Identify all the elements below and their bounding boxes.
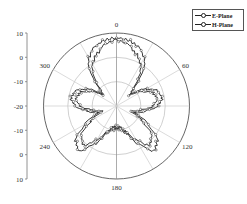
data-point-marker bbox=[111, 41, 113, 43]
radial-tick-label: -10 bbox=[14, 127, 24, 135]
data-point-marker bbox=[91, 50, 93, 52]
data-point-marker bbox=[124, 42, 126, 44]
data-point-marker bbox=[143, 68, 145, 70]
data-point-marker bbox=[84, 123, 86, 125]
data-point-marker bbox=[76, 140, 78, 142]
data-point-marker bbox=[140, 49, 142, 51]
data-point-marker bbox=[130, 38, 132, 40]
data-point-marker bbox=[74, 92, 76, 94]
data-point-marker bbox=[82, 140, 84, 142]
data-point-marker bbox=[76, 148, 78, 150]
radial-axis: 10 0 -10 -20 -10 0 10 bbox=[14, 30, 27, 184]
data-point-marker bbox=[130, 110, 132, 112]
data-point-marker bbox=[133, 139, 135, 141]
radial-tick-label: -20 bbox=[14, 103, 24, 111]
data-point-marker bbox=[136, 110, 138, 112]
data-point-marker bbox=[95, 112, 97, 114]
data-point-marker bbox=[130, 45, 132, 47]
angle-label-180: 180 bbox=[111, 184, 122, 192]
data-point-marker bbox=[140, 66, 142, 68]
data-point-marker bbox=[139, 108, 141, 110]
data-point-marker bbox=[96, 81, 98, 83]
data-point-marker bbox=[92, 117, 94, 119]
data-point-marker bbox=[158, 105, 160, 107]
data-point-marker bbox=[85, 125, 87, 127]
data-point-marker bbox=[93, 109, 95, 111]
data-point-marker bbox=[155, 94, 157, 96]
data-point-marker bbox=[122, 39, 124, 41]
line-circle-marker-icon bbox=[195, 20, 211, 29]
data-point-marker bbox=[75, 95, 77, 97]
data-point-marker bbox=[92, 70, 94, 72]
data-point-marker bbox=[75, 99, 77, 101]
data-point-marker bbox=[137, 142, 139, 144]
data-point-marker bbox=[139, 140, 141, 142]
legend: E-Plane H-Plane bbox=[192, 9, 244, 31]
data-point-marker bbox=[102, 94, 104, 96]
data-point-marker bbox=[149, 91, 151, 93]
data-point-marker bbox=[98, 110, 100, 112]
data-point-marker bbox=[112, 128, 114, 130]
data-point-marker bbox=[135, 45, 137, 47]
data-point-marker bbox=[85, 87, 87, 89]
data-point-marker bbox=[152, 106, 154, 108]
data-point-marker bbox=[155, 149, 157, 151]
data-point-marker bbox=[153, 102, 155, 104]
data-point-marker bbox=[119, 128, 121, 130]
data-point-marker bbox=[95, 138, 97, 140]
data-point-marker bbox=[91, 90, 93, 92]
data-point-marker bbox=[118, 41, 120, 43]
data-point-marker bbox=[87, 55, 89, 57]
legend-label: H-Plane bbox=[212, 22, 233, 28]
radial-tick-label: 10 bbox=[16, 30, 24, 38]
data-point-marker bbox=[100, 137, 102, 139]
data-point-marker bbox=[158, 100, 160, 102]
polar-spokes bbox=[44, 33, 190, 179]
data-point-marker bbox=[148, 108, 150, 110]
angle-label-300: 300 bbox=[40, 62, 51, 70]
data-point-marker bbox=[88, 68, 90, 70]
data-point-marker bbox=[94, 142, 96, 144]
data-point-marker bbox=[72, 100, 74, 102]
angle-label-240: 240 bbox=[40, 143, 51, 151]
data-point-marker bbox=[157, 91, 159, 93]
radial-tick-label: 0 bbox=[20, 151, 24, 159]
data-point-marker bbox=[136, 115, 138, 117]
data-point-marker bbox=[76, 134, 78, 136]
legend-item-h-plane: H-Plane bbox=[195, 20, 233, 29]
data-point-marker bbox=[82, 107, 84, 109]
angle-label-120: 120 bbox=[182, 143, 193, 151]
data-point-marker bbox=[149, 138, 151, 140]
data-point-marker bbox=[84, 145, 86, 147]
data-point-marker bbox=[89, 111, 91, 113]
data-point-marker bbox=[122, 128, 124, 130]
data-point-marker bbox=[136, 78, 138, 80]
radial-tick-label: 0 bbox=[20, 54, 24, 62]
data-point-marker bbox=[74, 105, 76, 107]
radial-tick-label: -10 bbox=[14, 78, 24, 86]
data-point-marker bbox=[95, 55, 97, 57]
data-point-marker bbox=[80, 92, 82, 94]
data-point-marker bbox=[155, 133, 157, 135]
data-point-marker bbox=[79, 104, 81, 106]
data-point-marker bbox=[115, 124, 117, 126]
data-point-marker bbox=[151, 89, 153, 91]
angle-label-60: 60 bbox=[182, 62, 190, 70]
data-point-marker bbox=[134, 54, 136, 56]
data-point-marker bbox=[142, 111, 144, 113]
data-point-marker bbox=[101, 39, 103, 41]
data-point-marker bbox=[147, 148, 149, 150]
data-point-marker bbox=[96, 45, 98, 47]
data-point-marker bbox=[100, 111, 102, 113]
data-point-marker bbox=[106, 131, 108, 133]
data-point-marker bbox=[143, 122, 145, 124]
data-point-marker bbox=[128, 95, 130, 97]
data-point-marker bbox=[155, 140, 157, 142]
data-point-marker bbox=[130, 138, 132, 140]
data-point-marker bbox=[138, 80, 140, 82]
line-circle-marker-icon bbox=[195, 11, 211, 20]
data-point-marker bbox=[110, 127, 112, 129]
angle-label-0: 0 bbox=[115, 21, 119, 29]
data-point-marker bbox=[84, 149, 86, 151]
data-point-marker bbox=[138, 58, 140, 60]
